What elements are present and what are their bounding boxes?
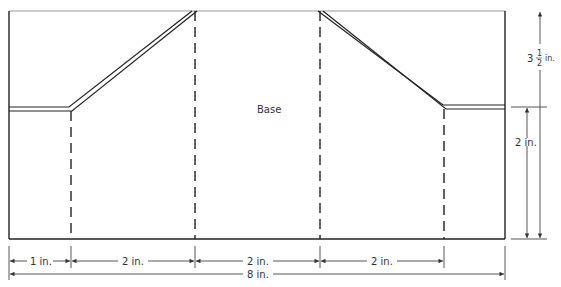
dimension-height-3-5in-label: 3 1 2 in.	[527, 49, 555, 68]
right-fold-line	[318, 11, 505, 109]
svg-text:1: 1	[537, 49, 542, 58]
dimension-2in-a-label: 2 in.	[122, 256, 144, 267]
left-fold-line	[9, 11, 197, 111]
dimension-2in-c-label: 2 in.	[371, 256, 393, 267]
svg-text:in.: in.	[545, 54, 555, 63]
template-diagram: Base 1 in. 2 in. 2 in. 2 in. 8 in.	[0, 0, 561, 287]
svg-text:3: 3	[527, 53, 533, 64]
dimension-1in-label: 1 in.	[30, 256, 52, 267]
outline	[9, 11, 505, 239]
dashed-fold-lines	[71, 11, 444, 239]
base-label: Base	[257, 104, 281, 115]
right-extension-lines	[511, 107, 547, 239]
dimension-height-2in-label: 2 in.	[515, 137, 537, 148]
dimension-8in-label: 8 in.	[247, 269, 269, 280]
dimension-2in-b-label: 2 in.	[247, 256, 269, 267]
svg-text:2: 2	[537, 59, 542, 68]
